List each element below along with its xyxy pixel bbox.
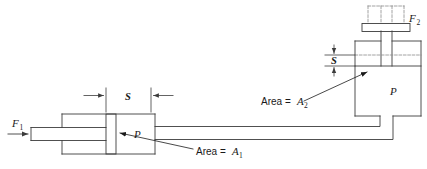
area-right-label: Area = A 2 <box>261 95 308 110</box>
area-left-symbol: A <box>231 145 239 157</box>
stroke-dimension-right <box>325 45 355 76</box>
area-right-subscript: 2 <box>304 101 308 110</box>
connecting-pipe <box>155 116 393 140</box>
right-ram-rod <box>381 31 392 66</box>
area-right-leader <box>304 72 367 101</box>
diagram-canvas: F 1 S P Area = A 1 F 2 S P Area = A 2 <box>0 0 427 169</box>
pressure-left-label: P <box>133 128 141 140</box>
force-output-subscript: 2 <box>417 18 421 27</box>
area-left-leader <box>120 133 193 149</box>
force-input-subscript: 1 <box>20 123 24 132</box>
hydraulic-press-figure: F 1 S P Area = A 1 F 2 S P Area = A 2 <box>0 0 427 169</box>
left-cylinder-body <box>62 114 155 154</box>
area-left-subscript: 1 <box>239 151 243 160</box>
left-piston <box>106 114 116 154</box>
area-left-text: Area = <box>196 146 226 157</box>
pressure-right-label: P <box>389 85 397 97</box>
force-input-label: F 1 <box>11 117 24 132</box>
left-piston-rod <box>31 128 106 141</box>
area-left-label: Area = A 1 <box>196 145 243 160</box>
right-cylinder-body <box>355 41 421 116</box>
phantom-retracted-outline <box>368 6 404 24</box>
area-right-text: Area = <box>261 96 291 107</box>
force-input-symbol: F <box>11 117 19 129</box>
area-right-symbol: A <box>296 95 304 107</box>
right-platen-plate <box>362 24 410 32</box>
stroke-right-label: S <box>331 55 337 66</box>
force-output-symbol: F <box>408 12 416 24</box>
stroke-left-label: S <box>125 91 131 102</box>
